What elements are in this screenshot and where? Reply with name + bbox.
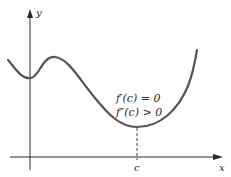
x-axis-arrow-icon: [213, 154, 223, 160]
x-axis-label: x: [219, 163, 225, 173]
c-point-label: c: [134, 163, 140, 173]
second-derivative-test-figure: y x c f′(c) = 0 f″(c) > 0: [0, 0, 231, 177]
second-derivative-condition: f″(c) > 0: [116, 107, 162, 118]
y-axis-arrow-icon: [27, 9, 33, 18]
y-axis-label: y: [36, 8, 42, 18]
function-curve: [8, 50, 197, 127]
first-derivative-condition: f′(c) = 0: [116, 93, 161, 104]
graph-canvas: [0, 0, 231, 177]
